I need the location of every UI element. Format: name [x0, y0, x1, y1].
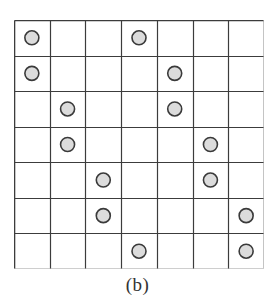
circle-marker-icon: [168, 102, 182, 116]
circle-marker-icon: [96, 173, 110, 187]
circle-marker-icon: [239, 209, 253, 223]
circle-marker-icon: [61, 138, 75, 152]
circle-marker-icon: [168, 66, 182, 80]
circle-marker-icon: [132, 244, 146, 258]
circle-marker-icon: [203, 173, 217, 187]
circle-marker-icon: [25, 31, 39, 45]
figure-caption: (b): [0, 274, 275, 296]
circle-marker-icon: [239, 244, 253, 258]
circle-marker-icon: [203, 138, 217, 152]
grid-svg: [14, 20, 264, 269]
circle-marker-icon: [25, 66, 39, 80]
grid-markers: [25, 31, 253, 258]
grid-lines: [15, 21, 265, 270]
circle-marker-icon: [96, 209, 110, 223]
circle-marker-icon: [61, 102, 75, 116]
figure-container: (b): [0, 0, 275, 304]
occupancy-grid: [14, 20, 264, 269]
circle-marker-icon: [132, 31, 146, 45]
